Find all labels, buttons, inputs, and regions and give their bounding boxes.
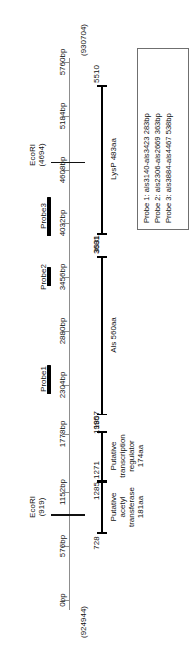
restriction-site-position: (4694): [38, 143, 46, 166]
legend-entry: Probe 1: als3140-als3423 283bp: [143, 113, 151, 223]
orf-name-label: acetyl: [119, 496, 127, 517]
genetic-map-figure: 0bp576bp1152bp1778bp2304bp2880bp3456bp40…: [0, 0, 194, 670]
orf-name-label: Als 560aa: [110, 317, 118, 353]
probe-label: Probe2: [40, 264, 48, 290]
orf-start-label: 728: [93, 536, 101, 549]
orf-end-cap: [97, 85, 107, 87]
axis-tick-label: 5184bp: [59, 102, 67, 129]
orf-name-label: Putative: [110, 492, 118, 521]
orf-name-label: transferase: [128, 487, 136, 527]
axis-tick-label: 1778bp: [59, 421, 67, 448]
restriction-site-name: EcoRI: [29, 496, 37, 518]
probe-label: Probe3: [40, 203, 48, 229]
probe-label: Probe1: [40, 366, 48, 392]
axis-start-coordinate: (924944): [80, 606, 88, 638]
orf-start-label: 3931: [93, 235, 101, 253]
orf-end-label: 1271: [93, 461, 101, 479]
axis-tick-label: 0bp: [59, 593, 67, 606]
legend-entry: Probe 3: als3884-als4467 538bp: [165, 113, 173, 223]
axis-tick-label: 1152bp: [59, 479, 67, 505]
orf-name-label: 174aa: [137, 444, 145, 466]
orf-name-label: regulator: [128, 440, 136, 472]
legend-entry: Probe 2: als2306-als2669 363bp: [154, 113, 162, 223]
orf-start-label: 1995: [93, 416, 101, 434]
axis-tick-label: 3456bp: [59, 264, 67, 291]
axis-end-coordinate: (930704): [80, 24, 88, 56]
orf-end-cap: [97, 256, 107, 258]
orf-bar: [101, 85, 103, 232]
axis-tick-label: 4032bp: [59, 210, 67, 237]
axis-tick-label: 576bp: [59, 535, 67, 557]
orf-name-label: 181aa: [137, 496, 145, 518]
orf-name-label: LysP 483aa: [110, 138, 118, 180]
orf-name-label: Putative: [110, 441, 118, 470]
axis-tick-label: 2304bp: [59, 371, 67, 398]
axis-tick-label: 5760bp: [59, 49, 67, 76]
orf-bar: [101, 481, 103, 532]
orf-end-cap: [97, 532, 107, 534]
genome-axis-line: [69, 58, 70, 610]
orf-bar: [101, 256, 103, 413]
axis-tick-label: 2880bp: [59, 318, 67, 345]
restriction-site-name: EcoRI: [29, 144, 37, 166]
orf-end-label: 5510: [93, 65, 101, 83]
orf-name-label: transcription: [119, 434, 127, 478]
orf-start-label: 1285: [93, 482, 101, 500]
restriction-site-line: [51, 514, 85, 516]
restriction-site-position: (919): [38, 498, 46, 517]
orf-bar: [101, 431, 103, 480]
axis-tick-label: 4608bp: [59, 156, 67, 183]
restriction-site-line: [51, 162, 85, 164]
